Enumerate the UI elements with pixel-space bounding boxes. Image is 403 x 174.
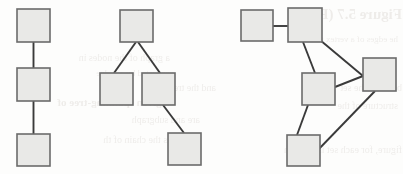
edge-top-middle-to-center [303, 42, 315, 73]
cyclic-graph-node-top-left[interactable] [241, 10, 273, 41]
edge-right-child-to-leaf [163, 105, 184, 133]
cyclic-graph-node-bottom[interactable] [287, 135, 320, 166]
cyclic-graph-node-right[interactable] [363, 58, 396, 91]
vertical-chain-graph-node-top[interactable] [17, 9, 50, 42]
tree-graph-node-leaf[interactable] [168, 133, 201, 165]
edge-center-to-right [335, 76, 363, 87]
nodes-group [17, 8, 396, 166]
tree-graph-node-right-child[interactable] [142, 73, 175, 105]
edge-top-middle-to-right [320, 40, 363, 76]
edge-root-to-left-child [114, 42, 136, 73]
cyclic-graph-node-top-middle[interactable] [288, 8, 322, 42]
tree-graph-node-left-child[interactable] [100, 73, 133, 105]
edge-root-to-right-child [138, 42, 160, 73]
cyclic-graph-node-center[interactable] [302, 73, 335, 105]
graph-figure: Figure 5.7 (PS)he edges of a vertex tree… [0, 0, 403, 174]
tree-graph-node-root[interactable] [120, 10, 153, 42]
graph-canvas [0, 0, 403, 174]
vertical-chain-graph-node-bottom[interactable] [17, 134, 50, 166]
edge-center-to-bottom [297, 105, 308, 135]
vertical-chain-graph-node-middle[interactable] [17, 68, 50, 101]
